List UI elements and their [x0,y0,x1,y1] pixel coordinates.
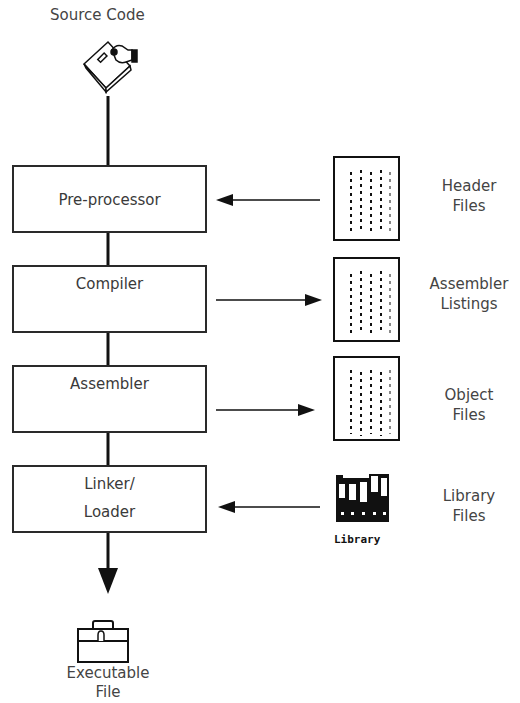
side-label-line2: Files [424,196,514,216]
executable-file-label: Executable File [58,664,158,702]
side-label-line1: Assembler [424,274,514,294]
side-label-line1: Header [424,176,514,196]
diagram-connectors [0,0,520,703]
side-label-object: Object Files [424,385,514,425]
stage-label-line1: Linker/ [14,475,205,493]
stage-label: Pre-processor [14,191,205,209]
stage-linker-loader: Linker/ Loader [12,465,207,533]
stage-label: Compiler [14,275,205,293]
output-label-line1: Executable [58,664,158,683]
side-label-line2: Listings [424,294,514,314]
output-label-line2: File [58,683,158,702]
assembler-listings-document-icon [334,258,399,341]
side-label-line2: Files [424,506,514,526]
object-files-document-icon [334,357,399,440]
side-label-line1: Object [424,385,514,405]
stage-label: Assembler [14,375,205,393]
output-arrowhead [98,568,118,594]
side-label-line2: Files [424,405,514,425]
stage-preprocessor: Pre-processor [12,165,207,233]
stage-compiler: Compiler [12,265,207,333]
side-label-line1: Library [424,486,514,506]
floppy-disk-hand-icon [84,42,137,92]
side-label-header: Header Files [424,176,514,216]
library-binders-icon [336,474,389,522]
side-label-library: Library Files [424,486,514,526]
stage-assembler: Assembler [12,365,207,433]
library-icon-caption: Library [334,533,380,546]
stage-label-line2: Loader [14,503,205,521]
side-label-listings: Assembler Listings [424,274,514,314]
toolbox-icon [78,621,128,662]
header-files-document-icon [334,157,399,240]
